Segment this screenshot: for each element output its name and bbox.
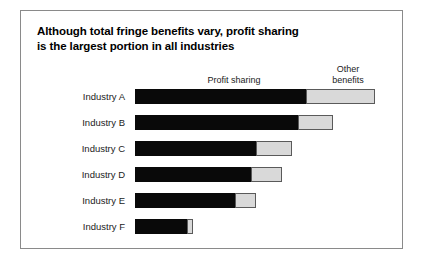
bar-row-label: Industry A [31, 90, 125, 103]
bar-row: Industry D [21, 167, 404, 182]
bar-row-label: Industry F [31, 220, 125, 233]
legend-label-other-benefits: Other benefits [315, 64, 381, 85]
chart-title: Although total fringe benefits vary, pro… [37, 24, 387, 53]
bar-row-label: Industry E [31, 194, 125, 207]
chart-frame: Although total fringe benefits vary, pro… [20, 10, 403, 249]
chart-title-line-1: Although total fringe benefits vary, pro… [37, 24, 387, 39]
bar-segment-other-benefits [298, 115, 333, 130]
bar-segment-profit-sharing [135, 141, 256, 156]
bar-segment-other-benefits [306, 89, 375, 104]
bar-track [135, 115, 333, 130]
bar-row-label: Industry D [31, 168, 125, 181]
bar-segment-profit-sharing [135, 219, 187, 234]
bar-segment-profit-sharing [135, 193, 235, 208]
bar-row: Industry A [21, 89, 404, 104]
bar-row: Industry E [21, 193, 404, 208]
bar-row: Industry B [21, 115, 404, 130]
bar-segment-other-benefits [256, 141, 292, 156]
bar-row-label: Industry B [31, 116, 125, 129]
bar-track [135, 141, 292, 156]
bar-track [135, 193, 256, 208]
legend-label-other-benefits-line-1: Other [315, 64, 381, 75]
legend-label-other-benefits-line-2: benefits [315, 75, 381, 86]
bar-segment-profit-sharing [135, 115, 298, 130]
chart-plot-area: Industry AIndustry BIndustry CIndustry D… [21, 87, 404, 247]
bar-track [135, 167, 282, 182]
chart-title-line-2: is the largest portion in all industries [37, 39, 387, 54]
bar-segment-other-benefits [187, 219, 193, 234]
bar-row-label: Industry C [31, 142, 125, 155]
bar-row: Industry C [21, 141, 404, 156]
bar-track [135, 219, 193, 234]
bar-segment-profit-sharing [135, 167, 251, 182]
bar-segment-other-benefits [235, 193, 256, 208]
bar-row: Industry F [21, 219, 404, 234]
legend-label-profit-sharing: Profit sharing [189, 75, 279, 86]
bar-segment-other-benefits [251, 167, 282, 182]
bar-track [135, 89, 375, 104]
chart-legend: Profit sharing Other benefits [21, 59, 404, 87]
bar-segment-profit-sharing [135, 89, 306, 104]
